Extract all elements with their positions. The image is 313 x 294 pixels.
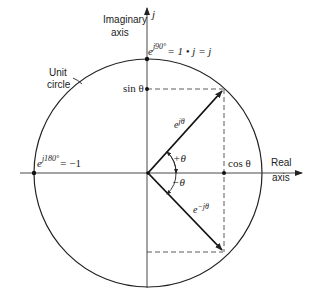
imaginary-axis-label-line2: axis — [111, 27, 129, 38]
plus-theta-label: +θ — [173, 152, 186, 164]
imaginary-axis-label-line1: Imaginary — [103, 14, 147, 25]
sin-theta-dot — [145, 87, 149, 91]
vector-e-neg-j-theta — [148, 173, 222, 250]
left-point-label: ej180°= −1 — [37, 154, 81, 169]
top-point-label: ej90°= 1 • j = j — [148, 42, 211, 57]
e-neg-j-theta-label: e−jθ — [193, 202, 209, 215]
real-axis-label-line2: axis — [272, 172, 290, 183]
real-axis-label-line1: Real — [271, 157, 292, 168]
unit-circle-label-line2: circle — [47, 79, 71, 90]
cos-theta-dot — [222, 171, 226, 175]
j-axis-label: j — [150, 8, 155, 20]
top-point-dot — [145, 57, 149, 61]
unit-circle-diagram: Imaginary axis j ej90°= 1 • j = j Unit c… — [0, 0, 313, 294]
cos-theta-label: cos θ — [228, 157, 251, 169]
sin-theta-label: sin θ — [123, 82, 144, 94]
unit-circle-label-line1: Unit — [49, 67, 67, 78]
left-point-dot — [32, 171, 36, 175]
e-j-theta-label: ejθ — [174, 117, 185, 130]
origin-dot — [146, 171, 150, 175]
minus-theta-label: −θ — [172, 176, 185, 188]
